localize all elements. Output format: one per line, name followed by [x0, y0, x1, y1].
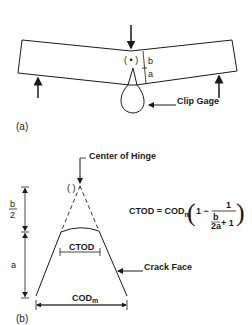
dim-b2-num: b [10, 199, 15, 209]
paren-right: ) [236, 198, 245, 227]
dim-b2-den: 2 [10, 210, 15, 220]
codm-label: CODm [72, 293, 98, 304]
crack-face [36, 228, 127, 296]
crack-face-label: Crack Face [144, 262, 192, 272]
ctod-formula: CTOD = CODm ( 1 − 1 b 2a + 1 ) [129, 198, 245, 231]
dim-a-label: a [148, 69, 153, 79]
panel-b: Center of Hinge ( ) CTOD CODm Crack Face [9, 151, 245, 324]
formula-plus-one: + 1 [221, 218, 234, 228]
hinge-symbol-b: ( ) [67, 183, 76, 193]
dim-a-label-b: a [11, 260, 16, 270]
diagram-canvas: ( • ) b a Clip Gage (a) Center of Hinge … [0, 0, 252, 325]
paren-left: ( [187, 198, 196, 227]
hinge-symbol: ( • ) [124, 55, 138, 65]
center-of-hinge-label: Center of Hinge [89, 151, 156, 161]
ctod-label: CTOD [69, 242, 95, 252]
panel-a: ( • ) b a Clip Gage (a) [16, 25, 237, 132]
clip-gage-label: Clip Gage [177, 96, 219, 106]
dimension-line [143, 51, 146, 84]
formula-lhs: CTOD = CODm [129, 206, 191, 218]
notch [128, 68, 137, 85]
dim-b-label: b [148, 56, 153, 66]
extension-line-right [80, 186, 99, 231]
clip-gage [121, 85, 144, 113]
panel-b-label: (b) [16, 313, 28, 324]
formula-numerator: 1 [226, 200, 231, 210]
formula-one-minus: 1 − [196, 206, 209, 216]
panel-a-label: (a) [16, 121, 28, 132]
